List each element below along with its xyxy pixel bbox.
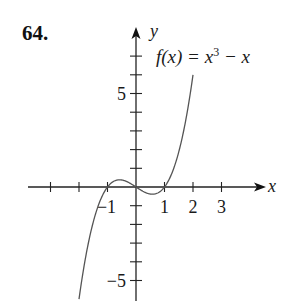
problem-number: 64. — [22, 21, 48, 45]
figure: 64. −11235−5 y x f(x) = x3 − x — [0, 0, 292, 301]
x-tick-label: 2 — [189, 197, 198, 217]
y-tick-label: 5 — [117, 84, 126, 104]
x-tick-label: 3 — [217, 197, 226, 217]
y-axis-label: y — [148, 21, 158, 41]
axes — [28, 27, 266, 301]
function-label: f(x) = x3 − x — [156, 45, 250, 68]
x-tick-label: 1 — [160, 197, 169, 217]
x-axis-label: x — [267, 176, 276, 196]
function-graph: 64. −11235−5 y x f(x) = x3 − x — [0, 0, 292, 301]
y-tick-label: −5 — [107, 271, 126, 291]
function-label-rhs: − x — [219, 46, 250, 67]
function-label-lhs: f(x) = x — [156, 46, 214, 68]
